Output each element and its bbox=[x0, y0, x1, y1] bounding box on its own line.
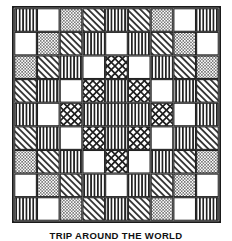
vertical-stripe-patch bbox=[83, 32, 105, 55]
diagonal-hatch-patch bbox=[83, 198, 105, 221]
blank-patch bbox=[60, 80, 82, 103]
vertical-stripe-patch bbox=[83, 103, 105, 126]
vertical-stripe-patch bbox=[37, 80, 59, 103]
blank-patch bbox=[37, 9, 59, 32]
vertical-stripe-patch bbox=[15, 103, 37, 126]
quilt-grid-container bbox=[12, 6, 221, 223]
dotted-stipple-patch bbox=[15, 56, 37, 79]
crosshatch-patch bbox=[60, 103, 82, 126]
vertical-stripe-patch bbox=[60, 150, 82, 173]
blank-patch bbox=[128, 56, 150, 79]
blank-patch bbox=[60, 127, 82, 150]
vertical-stripe-patch bbox=[106, 198, 128, 221]
vertical-stripe-patch bbox=[174, 127, 196, 150]
vertical-stripe-patch bbox=[151, 150, 173, 173]
crosshatch-patch bbox=[83, 80, 105, 103]
vertical-stripe-patch bbox=[106, 80, 128, 103]
blank-patch bbox=[83, 56, 105, 79]
vertical-stripe-patch bbox=[106, 103, 128, 126]
vertical-stripe-patch bbox=[197, 9, 219, 32]
vertical-stripe-patch bbox=[174, 80, 196, 103]
dotted-stipple-patch bbox=[15, 150, 37, 173]
crosshatch-patch bbox=[106, 150, 128, 173]
vertical-stripe-patch bbox=[37, 127, 59, 150]
diagonal-hatch-patch bbox=[197, 80, 219, 103]
dotted-stipple-patch bbox=[174, 174, 196, 197]
diagonal-hatch-patch bbox=[60, 32, 82, 55]
diagonal-hatch-patch bbox=[37, 56, 59, 79]
vertical-stripe-patch bbox=[60, 56, 82, 79]
vertical-stripe-patch bbox=[15, 9, 37, 32]
vertical-stripe-patch bbox=[83, 174, 105, 197]
crosshatch-patch bbox=[151, 103, 173, 126]
quilt-block-figure: TRIP AROUND THE WORLD bbox=[0, 0, 232, 241]
dotted-stipple-patch bbox=[151, 9, 173, 32]
diagonal-hatch-patch bbox=[128, 198, 150, 221]
dotted-stipple-patch bbox=[60, 198, 82, 221]
block-caption: TRIP AROUND THE WORLD bbox=[0, 231, 232, 241]
vertical-stripe-patch bbox=[128, 174, 150, 197]
patch-layer bbox=[15, 9, 219, 221]
dotted-stipple-patch bbox=[37, 32, 59, 55]
vertical-stripe-patch bbox=[106, 9, 128, 32]
blank-patch bbox=[151, 127, 173, 150]
vertical-stripe-patch bbox=[197, 198, 219, 221]
blank-patch bbox=[197, 174, 219, 197]
vertical-stripe-patch bbox=[128, 103, 150, 126]
blank-patch bbox=[37, 198, 59, 221]
blank-patch bbox=[128, 150, 150, 173]
blank-patch bbox=[106, 32, 128, 55]
vertical-stripe-patch bbox=[151, 56, 173, 79]
vertical-stripe-patch bbox=[15, 198, 37, 221]
blank-patch bbox=[15, 174, 37, 197]
dotted-stipple-patch bbox=[197, 150, 219, 173]
diagonal-hatch-patch bbox=[174, 56, 196, 79]
dotted-stipple-patch bbox=[174, 32, 196, 55]
quilt-grid-svg bbox=[12, 6, 221, 223]
blank-patch bbox=[174, 103, 196, 126]
diagonal-hatch-patch bbox=[15, 80, 37, 103]
diagonal-hatch-patch bbox=[128, 9, 150, 32]
blank-patch bbox=[15, 32, 37, 55]
diagonal-hatch-patch bbox=[83, 9, 105, 32]
dotted-stipple-patch bbox=[37, 174, 59, 197]
diagonal-hatch-patch bbox=[151, 174, 173, 197]
diagonal-hatch-patch bbox=[174, 150, 196, 173]
vertical-stripe-patch bbox=[128, 32, 150, 55]
blank-patch bbox=[37, 103, 59, 126]
blank-patch bbox=[174, 9, 196, 32]
dotted-stipple-patch bbox=[197, 56, 219, 79]
crosshatch-patch bbox=[106, 56, 128, 79]
blank-patch bbox=[197, 32, 219, 55]
dotted-stipple-patch bbox=[151, 198, 173, 221]
blank-patch bbox=[174, 198, 196, 221]
blank-patch bbox=[151, 80, 173, 103]
vertical-stripe-patch bbox=[106, 127, 128, 150]
diagonal-hatch-patch bbox=[15, 127, 37, 150]
crosshatch-patch bbox=[128, 80, 150, 103]
diagonal-hatch-patch bbox=[151, 32, 173, 55]
diagonal-hatch-patch bbox=[197, 127, 219, 150]
crosshatch-patch bbox=[128, 127, 150, 150]
blank-patch bbox=[106, 174, 128, 197]
crosshatch-patch bbox=[83, 127, 105, 150]
vertical-stripe-patch bbox=[197, 103, 219, 126]
diagonal-hatch-patch bbox=[60, 174, 82, 197]
diagonal-hatch-patch bbox=[37, 150, 59, 173]
dotted-stipple-patch bbox=[60, 9, 82, 32]
blank-patch bbox=[83, 150, 105, 173]
